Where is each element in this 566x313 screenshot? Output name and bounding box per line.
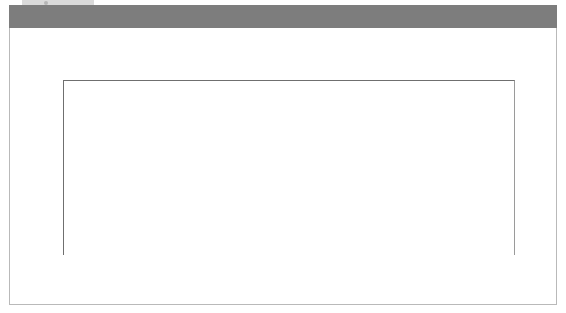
- chart-panel: [9, 28, 557, 305]
- figure-container: [9, 5, 557, 306]
- x-axis-tick-labels: [63, 257, 515, 301]
- y-axis-tick-labels: [10, 80, 58, 255]
- figure-title-bar: [9, 5, 557, 28]
- plot-area: [63, 80, 515, 255]
- area-chart-svg: [63, 80, 515, 255]
